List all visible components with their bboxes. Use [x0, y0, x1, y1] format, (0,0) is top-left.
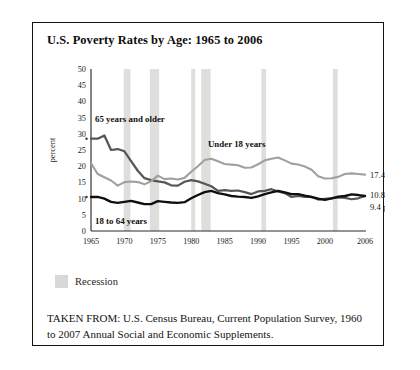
x-tick-label: 2006 [357, 237, 373, 246]
x-tick-label: 1985 [217, 237, 233, 246]
y-tick-label: 35 [78, 114, 86, 123]
y-tick-label: 20 [78, 162, 86, 171]
x-tick-label: 1975 [150, 237, 166, 246]
lead-dot-65-plus [85, 137, 88, 140]
x-tick-labels-group: 196519701975198019851990199520002006 [83, 237, 373, 246]
y-tick-label: 15 [78, 178, 86, 187]
recession-band [150, 69, 159, 231]
series-label-18-to-64: 18 to 64 years [95, 216, 148, 226]
x-tick-label: 1970 [116, 237, 132, 246]
x-tick-label: 1995 [283, 237, 299, 246]
y-tick-label: 40 [78, 97, 86, 106]
y-axis-title: percent [48, 137, 57, 162]
recession-band [124, 69, 131, 231]
x-tick-label: 1965 [83, 237, 99, 246]
y-tick-label: 25 [78, 146, 86, 155]
recession-legend: Recession [55, 275, 118, 288]
figure-panel: U.S. Poverty Rates by Age: 1965 to 2006 … [32, 22, 384, 346]
y-tick-label: 50 [78, 65, 86, 74]
axes-group [91, 69, 366, 231]
recession-band [191, 69, 195, 231]
recession-band [333, 69, 338, 231]
source-note: TAKEN FROM: U.S. Census Bureau, Current … [47, 311, 371, 342]
y-tick-label: 30 [78, 130, 86, 139]
recession-band [201, 69, 210, 231]
x-tick-label: 2000 [317, 237, 333, 246]
recession-swatch-icon [55, 275, 68, 288]
poverty-rate-line-chart: 05101520253035404550 1965197019751980198… [33, 61, 385, 269]
y-tick-label: 10 [78, 195, 86, 204]
y-tick-label: 45 [78, 81, 86, 90]
y-tick-label: 5 [82, 211, 86, 220]
recession-band [261, 69, 266, 231]
end-value-65-plus: 10.8 percent [370, 190, 385, 200]
series-label-under-18: Under 18 years [208, 139, 266, 149]
end-value-18-to-64: 9.4 percent [370, 202, 385, 212]
recession-legend-label: Recession [75, 276, 118, 287]
recession-bands-group [124, 69, 338, 231]
y-tick-label: 0 [82, 227, 86, 236]
lead-dot-18-to-64 [85, 196, 88, 199]
chart-plot-area: 05101520253035404550 1965197019751980198… [33, 61, 385, 269]
end-value-under-18: 17.4 percent [370, 170, 385, 180]
y-tick-labels-group: 05101520253035404550 [78, 65, 86, 236]
x-tick-label: 1980 [183, 237, 199, 246]
x-tick-label: 1990 [250, 237, 266, 246]
page-title: U.S. Poverty Rates by Age: 1965 to 2006 [47, 33, 263, 48]
series-label-65-plus: 65 years and older [95, 114, 165, 124]
series-line-18-to-64 [91, 191, 365, 204]
